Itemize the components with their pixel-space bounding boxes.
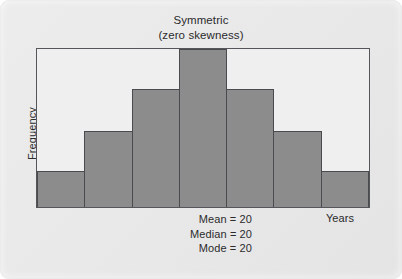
histogram-bar	[321, 171, 369, 207]
figure-card: Symmetric (zero skewness) Frequency Mean…	[0, 0, 402, 279]
histogram-bar	[273, 131, 321, 207]
histogram-bar	[37, 171, 85, 207]
stat-mean: Mean = 20	[92, 212, 252, 227]
statistics-annotation: Mean = 20 Median = 20 Mode = 20	[92, 212, 252, 256]
histogram-bar	[179, 49, 227, 207]
chart-title-line-1: Symmetric	[0, 13, 402, 28]
histogram-bars	[37, 49, 369, 207]
histogram-bar	[226, 89, 274, 207]
histogram-bar	[84, 131, 132, 207]
chart-title-line-2: (zero skewness)	[0, 28, 402, 43]
x-axis-label: Years	[305, 212, 375, 224]
chart-title: Symmetric (zero skewness)	[0, 13, 402, 43]
histogram-bar	[132, 89, 180, 207]
stat-mode: Mode = 20	[92, 241, 252, 256]
stat-median: Median = 20	[92, 227, 252, 242]
plot-area	[36, 48, 370, 208]
